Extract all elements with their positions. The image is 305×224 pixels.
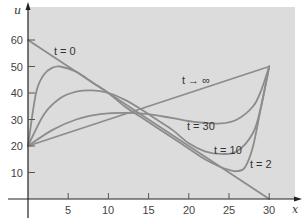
annotation-t0: t = 0 [54,45,76,57]
x-tick-label: 5 [65,204,71,216]
x-tick-label: 25 [223,204,235,216]
y-tick-label: 40 [11,87,23,99]
y-tick-label: 50 [11,61,23,73]
y-axis-label: u [14,4,21,17]
y-tick-label: 60 [11,34,23,46]
x-tick-label: 15 [142,204,154,216]
x-axis-label: x [292,203,299,216]
y-tick-label: 10 [11,167,23,179]
chart: u x 5 10 15 20 25 30 10 20 30 40 50 60 t… [0,0,305,224]
annotation-t10: t = 10 [214,144,242,156]
x-tick-label: 10 [102,204,114,216]
y-tick-label: 20 [11,140,23,152]
y-axis-arrow-icon [26,2,31,10]
x-axis-arrow-icon [294,197,302,202]
x-tick-label: 20 [183,204,195,216]
x-tick-label: 30 [263,204,275,216]
annotation-t-infinity: t → ∞ [182,74,210,86]
y-tick-label: 30 [11,114,23,126]
annotation-t2: t = 2 [250,158,272,170]
annotation-t30: t = 30 [187,120,215,132]
